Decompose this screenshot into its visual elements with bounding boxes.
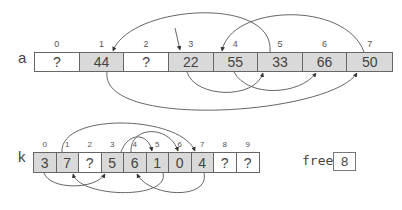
array-k-cell-4: 46 [124,153,147,172]
array-a-cell-0: 0? [35,53,80,71]
array-k-index: 3 [102,140,124,149]
array-k-value: 7 [63,155,71,171]
arrow-a1-a7 [107,72,357,110]
array-k-value: 6 [131,155,139,171]
array-k-label: k [18,148,26,165]
array-a-value: ? [142,54,150,70]
array-k-value: 5 [108,155,116,171]
array-a-cell-4: 455 [214,53,259,71]
arrow-k0-k3 [44,173,105,186]
array-a-index: 0 [35,39,79,49]
array-a-index: 5 [258,39,302,49]
array-a-label: a [18,49,26,66]
array-k-cell-5: 51 [147,153,170,172]
array-k-index: 2 [79,140,101,149]
array-k-value: ? [221,155,229,171]
array-a-value: 55 [228,54,244,70]
free-value: 8 [341,154,348,169]
array-a-index: 6 [303,39,347,49]
link-arrows [0,0,402,210]
array-k-index: 5 [147,140,169,149]
array-a-index: 3 [169,39,213,49]
array-a-cell-5: 533 [258,53,303,71]
arrow-k5-k1 [73,173,163,193]
array-k-cell-6: 60 [169,153,192,172]
array-a-index: 4 [214,39,258,49]
array-k-cell-1: 17 [57,153,80,172]
arrow-a3-a5 [187,72,263,92]
array-a-index: 7 [347,39,392,49]
array-k-index: 0 [34,140,56,149]
arrow-k7-k4 [137,173,204,193]
array-a-index: 1 [80,39,124,49]
free-value-box: 8 [333,152,356,171]
array-a-value: 44 [94,54,110,70]
array-k-value: 4 [198,155,206,171]
array-a-value: ? [53,54,61,70]
array-k-cell-3: 35 [102,153,125,172]
array-k-index: 8 [214,140,236,149]
array-a-value: 66 [317,54,333,70]
array-k-cell-0: 03 [34,153,57,172]
array-a-cell-3: 322 [169,53,214,71]
array-k-index: 7 [192,140,214,149]
array-k-value: 3 [41,155,49,171]
array-k-value: ? [244,155,252,171]
array-k-value: ? [86,155,94,171]
array-a-cell-6: 666 [303,53,348,71]
free-label: free [302,153,333,168]
array-k-index: 1 [57,140,79,149]
array-k-cell-9: 9? [237,153,260,172]
array-k-index: 9 [237,140,260,149]
array-a-value: 50 [362,54,378,70]
array-a-cell-1: 144 [80,53,125,71]
array-k-value: 1 [153,155,161,171]
array-k-index: 6 [169,140,191,149]
array-k-cell-8: 8? [214,153,237,172]
array-a-index: 2 [124,39,168,49]
array-k-index: 4 [124,140,146,149]
array-a-cell-2: 2? [124,53,169,71]
array-k: 03 17 2? 35 46 51 60 74 8? 9? [33,152,260,173]
array-k-cell-7: 74 [192,153,215,172]
arrow-a4-a6 [234,72,316,91]
array-a-value: 33 [272,54,288,70]
array-a-cell-7: 750 [347,53,392,71]
array-a: 0? 144 2? 322 455 533 666 750 [34,52,393,72]
array-k-value: 0 [176,155,184,171]
array-k-cell-2: 2? [79,153,102,172]
array-a-value: 22 [183,54,199,70]
